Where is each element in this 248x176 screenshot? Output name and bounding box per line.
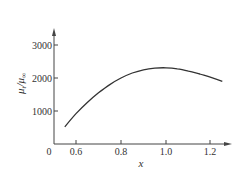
y-tick-label-2000: 2000 [32, 73, 52, 84]
x-tick-label-1.2: 1.2 [204, 146, 217, 157]
line-chart: 1000 2000 3000 0 0.6 0.8 1.0 1.2 x μt/μ∞ [0, 0, 248, 176]
x-tick-label-1.0: 1.0 [160, 146, 173, 157]
data-curve [65, 68, 223, 127]
y-axis-arrow-icon [52, 28, 56, 36]
origin-label: 0 [47, 146, 52, 157]
y-axis-label: μt/μ∞ [14, 73, 28, 95]
y-tick-label-1000: 1000 [32, 106, 52, 117]
x-axis-arrow-icon [224, 142, 232, 146]
x-axis-label: x [138, 157, 144, 169]
svg-text:μt/μ∞: μt/μ∞ [14, 73, 28, 95]
x-tick-label-0.6: 0.6 [70, 146, 83, 157]
y-tick-label-3000: 3000 [32, 40, 52, 51]
y-ticks [54, 45, 58, 111]
x-tick-label-0.8: 0.8 [115, 146, 128, 157]
x-ticks [76, 140, 210, 144]
